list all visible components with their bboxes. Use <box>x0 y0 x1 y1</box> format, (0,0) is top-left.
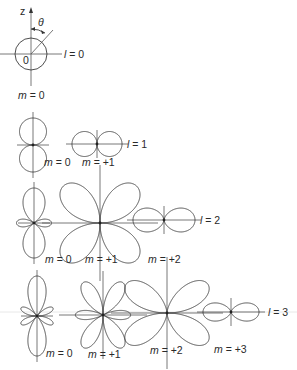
theta-arrow-icon <box>41 30 45 34</box>
plot-l1-m0 <box>17 112 49 178</box>
origin-dot <box>36 315 39 318</box>
spherical-harmonics-diagram: z θ 0 l = 0 l = 1 l = 2 l = 3 m = 0 m = … <box>0 0 297 370</box>
origin-dot <box>96 143 99 146</box>
plot-l2-m2 <box>127 206 201 234</box>
plot-l3-m3 <box>197 298 265 326</box>
origin-dot <box>32 144 35 147</box>
origin-dot <box>166 312 169 315</box>
polar-plots <box>17 112 266 369</box>
origin-dot <box>230 311 233 314</box>
l-label-2: l = 2 <box>200 214 220 226</box>
l-label-0: l = 0 <box>64 48 84 60</box>
m-label-l3-m1: m = +1 <box>88 348 121 360</box>
origin-dot <box>163 219 166 222</box>
z-axis-arrow-icon <box>29 7 33 13</box>
origin-dot <box>102 314 105 317</box>
theta-arrow-icon-start <box>31 27 35 31</box>
plot-l0-m0 <box>0 7 62 86</box>
m-label-l1-m1: m = +1 <box>82 156 115 168</box>
plot-l1-m1 <box>66 130 128 158</box>
z-axis-label: z <box>20 5 25 17</box>
theta-label: θ <box>38 16 44 28</box>
origin-dot <box>33 222 36 225</box>
l-label-1: l = 1 <box>127 138 147 150</box>
m-label-l3-m3: m = +3 <box>214 343 247 355</box>
l-label-3: l = 3 <box>268 306 288 318</box>
origin-dot <box>99 222 102 225</box>
m-label-l3-m2: m = +2 <box>150 344 183 356</box>
m-label-l2-m0: m = 0 <box>45 253 72 265</box>
m-label-l1-m0: m = 0 <box>44 156 71 168</box>
origin-label: 0 <box>23 54 29 66</box>
m-label-l0-m0: m = 0 <box>18 89 45 101</box>
m-label-l3-m0: m = 0 <box>46 347 73 359</box>
m-label-l2-m2: m = +2 <box>148 253 181 265</box>
m-label-l2-m1: m = +1 <box>85 253 118 265</box>
